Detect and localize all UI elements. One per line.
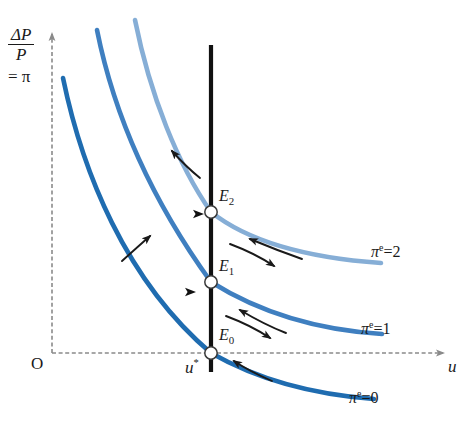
equilibrium-marker-e1[interactable] bbox=[205, 276, 217, 288]
equilibrium-label-e0-base: E bbox=[219, 326, 229, 343]
equilibrium-marker-e0[interactable] bbox=[205, 347, 217, 359]
equilibrium-label-e1-base: E bbox=[219, 257, 229, 274]
natural-rate-label-base: u bbox=[185, 358, 194, 377]
equilibrium-label-e0: E0 bbox=[219, 327, 234, 346]
x-axis-label: u bbox=[448, 358, 457, 375]
phillips-curve-figure: ΔP P = π u O u* E0 E1 E2 πe=2 πe=1 πe=0 bbox=[0, 0, 466, 426]
equilibrium-label-e1: E1 bbox=[219, 258, 234, 277]
equilibrium-label-e2: E2 bbox=[219, 188, 234, 207]
natural-rate-label: u* bbox=[185, 358, 199, 376]
equilibrium-label-e2-base: E bbox=[219, 187, 229, 204]
equilibrium-label-e0-sub: 0 bbox=[229, 334, 234, 346]
arrow-down-right-pi-e-2 bbox=[230, 244, 274, 266]
curve-label-pi-e-2-value: =2 bbox=[383, 243, 400, 260]
equilibrium-label-e1-sub: 1 bbox=[229, 265, 234, 277]
y-axis-label-numerator: ΔP bbox=[8, 26, 34, 45]
equilibrium-label-e2-sub: 2 bbox=[229, 195, 234, 207]
equilibrium-marker-e2[interactable] bbox=[205, 206, 217, 218]
curve-pi-e-0 bbox=[63, 78, 374, 399]
y-axis-label-equals: = π bbox=[8, 68, 34, 85]
curve-pi-e-1 bbox=[97, 30, 382, 334]
curve-label-pi-e-0-value: =0 bbox=[361, 389, 378, 406]
curve-label-pi-e-2: πe=2 bbox=[371, 243, 400, 260]
curve-label-pi-e-1-value: =1 bbox=[373, 320, 390, 337]
curve-label-pi-e-0-base: π bbox=[349, 389, 357, 406]
natural-rate-label-sup: * bbox=[194, 357, 199, 368]
curve-label-pi-e-1-base: π bbox=[361, 320, 369, 337]
curve-label-pi-e-1: πe=1 bbox=[361, 320, 390, 337]
origin-label: O bbox=[31, 355, 43, 372]
diagram-canvas bbox=[0, 0, 466, 426]
curve-label-pi-e-2-base: π bbox=[371, 243, 379, 260]
y-axis-label: ΔP P = π bbox=[8, 26, 34, 85]
curve-label-pi-e-0: πe=0 bbox=[349, 389, 378, 406]
y-axis-label-denominator: P bbox=[8, 45, 34, 63]
